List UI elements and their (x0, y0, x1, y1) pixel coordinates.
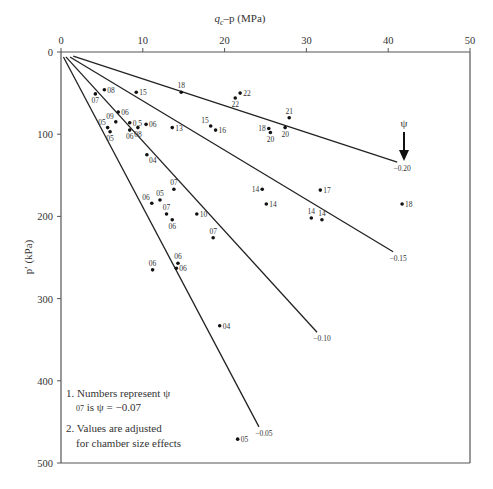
data-point-label: 08 (134, 130, 142, 139)
data-point-label: 05 (156, 189, 164, 198)
data-point (175, 266, 179, 270)
data-point (310, 216, 314, 220)
data-point-label: 14 (269, 200, 277, 209)
y-tick-label: 200 (37, 211, 53, 222)
x-tick-label: 50 (465, 35, 476, 46)
x-tick-label: 10 (138, 35, 149, 46)
data-point-label: 15 (201, 116, 209, 125)
data-point (150, 201, 154, 205)
data-point-label: 06 (142, 193, 150, 202)
data-point-label: 06 (179, 264, 187, 273)
y-axis-label: p′ (kPa) (22, 239, 35, 274)
trend-line-label: −0.10 (313, 334, 331, 343)
psi-symbol: ψ (401, 117, 408, 129)
x-tick-label: 40 (383, 35, 394, 46)
data-point (195, 212, 199, 216)
data-point (400, 202, 404, 206)
data-point (151, 268, 155, 272)
data-point-label: 18 (177, 81, 185, 90)
note-2b: for chamber size effects (76, 437, 181, 449)
note-2: 2. Values are adjusted (66, 422, 162, 434)
data-point (214, 128, 218, 132)
data-point (144, 123, 148, 127)
data-point (158, 198, 162, 202)
data-point-label: 20 (267, 135, 275, 144)
data-point-label: 05 (98, 118, 106, 127)
data-point (236, 437, 240, 441)
data-point (267, 127, 271, 131)
data-point-label: 07 (170, 178, 178, 187)
data-point-label: 22 (231, 100, 239, 109)
data-point-label: 07 (163, 203, 171, 212)
data-point-label: 05 (241, 435, 249, 444)
data-point-label: 08 (107, 86, 115, 95)
data-point-label: 16 (219, 126, 227, 135)
data-point (134, 90, 138, 94)
data-point (238, 91, 242, 95)
data-point-label: 04 (223, 322, 231, 331)
y-tick-label: 100 (37, 129, 53, 140)
data-point-label: 14 (308, 207, 316, 216)
y-tick-label: 0 (48, 47, 53, 58)
data-point (103, 88, 107, 92)
x-axis-label: qc–p (MPa) (215, 12, 266, 27)
x-ticks: 01020304050 (58, 35, 475, 52)
data-point-label: 06 (149, 120, 157, 129)
y-tick-label: 300 (37, 294, 53, 305)
data-point-label: 10 (200, 210, 208, 219)
data-point (106, 126, 110, 130)
data-point-label: 06 (121, 108, 129, 117)
data-point (179, 90, 183, 94)
data-point-label: 09 (106, 112, 114, 121)
data-point-label: 20 (281, 130, 289, 139)
psi-arrow-head (399, 150, 409, 161)
data-point-label: 21 (285, 107, 293, 116)
data-point (128, 121, 132, 125)
data-point (114, 120, 118, 124)
data-point (172, 187, 176, 191)
trend-line-label: −0.15 (389, 254, 407, 263)
data-point (260, 187, 264, 191)
psi-marker: ψ (399, 117, 409, 161)
data-point-label: 18 (405, 200, 413, 209)
chart: 01020304050 0100200300400500 qc–p (MPa) … (0, 0, 493, 489)
data-point (116, 110, 120, 114)
data-point (218, 324, 222, 328)
y-ticks: 0100200300400500 (37, 47, 61, 469)
data-point-label: 06 (149, 259, 157, 268)
data-point (165, 212, 169, 216)
data-point-label: 13 (175, 124, 183, 133)
y-tick-label: 500 (37, 458, 53, 469)
data-point (211, 236, 215, 240)
note-1-example: 07 is ψ = −0.07 (76, 401, 141, 413)
x-tick-label: 20 (219, 35, 230, 46)
x-tick-label: 0 (58, 35, 63, 46)
data-point (287, 116, 291, 120)
data-point-label: 07 (209, 227, 217, 236)
trend-lines: −0.20−0.15−0.10−0.05 (63, 56, 411, 438)
data-point-label: 17 (323, 186, 331, 195)
trend-line (66, 57, 317, 332)
data-point-label: 14 (252, 185, 260, 194)
data-point-label: 04 (149, 156, 157, 165)
data-point-label: 22 (243, 89, 251, 98)
trend-line-label: −0.05 (255, 429, 273, 438)
data-point-label: 06 (174, 252, 182, 261)
note-1: 1. Numbers represent ψ (66, 387, 170, 399)
data-point-label: 14 (318, 209, 326, 218)
data-point-label: 15 (139, 88, 147, 97)
trend-line-label: −0.20 (394, 164, 412, 173)
data-point (170, 126, 174, 130)
data-point-label: 05 (106, 134, 114, 143)
data-point-label: 18 (258, 124, 266, 133)
data-point (319, 188, 323, 192)
trend-line (70, 57, 393, 252)
y-tick-label: 400 (37, 376, 53, 387)
data-point-label: 06 (168, 222, 176, 231)
data-point (209, 124, 213, 128)
data-point (320, 218, 324, 222)
notes: 1. Numbers represent ψ 07 is ψ = −0.07 2… (66, 387, 181, 449)
data-point (265, 202, 269, 206)
x-tick-label: 30 (301, 35, 312, 46)
data-point-label: 06 (126, 132, 134, 141)
